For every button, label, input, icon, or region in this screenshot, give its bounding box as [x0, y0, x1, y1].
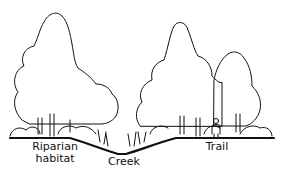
person-figure — [212, 119, 220, 139]
creek-grasses — [98, 130, 146, 146]
right-tall-tree-canopy — [136, 23, 222, 126]
creek-label: Creek — [104, 156, 144, 168]
right-small-tree-canopy — [214, 52, 261, 126]
riparian-habitat-label: Riparian habitat — [30, 141, 80, 165]
shrubs — [10, 126, 272, 136]
left-tree-canopy — [15, 13, 119, 124]
riparian-label-line2: habitat — [30, 153, 80, 165]
riparian-cross-section-diagram: Riparian habitat Creek Trail — [0, 0, 285, 174]
trail-label: Trail — [202, 141, 232, 153]
